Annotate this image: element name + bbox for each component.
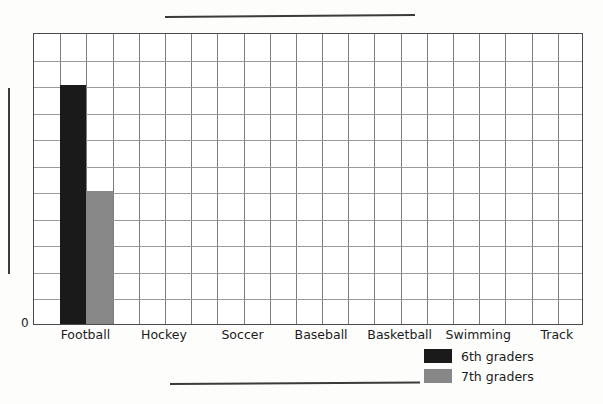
grid-line-horizontal [34, 246, 582, 247]
grid-line-vertical [270, 34, 271, 324]
grid-line-horizontal [34, 61, 582, 62]
grid-line-vertical [505, 34, 506, 324]
grid-line-horizontal [34, 87, 582, 88]
title-write-in-line[interactable] [165, 14, 415, 18]
grid-line-horizontal [34, 167, 582, 168]
grid-line-horizontal [34, 299, 582, 300]
grid-line-vertical [427, 34, 428, 324]
legend-item: 6th graders [424, 347, 599, 365]
y-axis-label-write-in-line[interactable] [8, 88, 10, 274]
legend-item: 7th graders [424, 367, 599, 385]
bar-football-7th [86, 191, 112, 324]
grid-line-vertical [139, 34, 140, 324]
x-tick-label-track: Track [497, 327, 603, 342]
grid-lines [34, 34, 582, 324]
plot-area [33, 33, 583, 325]
bar-chart-worksheet: 0 FootballHockeySoccerBaseballBasketball… [0, 0, 603, 404]
grid-line-vertical [532, 34, 533, 324]
legend-label: 7th graders [461, 369, 534, 384]
grid-line-vertical [113, 34, 114, 324]
grid-line-vertical [558, 34, 559, 324]
grid-line-horizontal [34, 114, 582, 115]
bar-football-6th [60, 85, 86, 324]
grid-line-vertical [165, 34, 166, 324]
x-axis-label-write-in-line[interactable] [170, 381, 420, 384]
grid-line-horizontal [34, 220, 582, 221]
grid-line-vertical [191, 34, 192, 324]
chart-legend: 6th graders7th graders [424, 347, 599, 387]
grid-line-vertical [348, 34, 349, 324]
legend-label: 6th graders [461, 349, 534, 364]
grid-line-horizontal [34, 273, 582, 274]
grid-line-vertical [217, 34, 218, 324]
grid-line-vertical [244, 34, 245, 324]
legend-swatch-6th [424, 349, 452, 363]
grid-line-vertical [374, 34, 375, 324]
legend-swatch-7th [424, 369, 452, 383]
grid-line-vertical [479, 34, 480, 324]
grid-line-horizontal [34, 193, 582, 194]
grid-line-vertical [453, 34, 454, 324]
grid-line-horizontal [34, 140, 582, 141]
grid-line-vertical [401, 34, 402, 324]
grid-line-vertical [296, 34, 297, 324]
grid-line-vertical [322, 34, 323, 324]
